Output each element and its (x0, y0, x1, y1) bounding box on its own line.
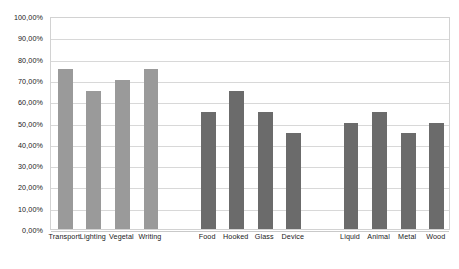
y-axis-tick-label: 70,00% (18, 76, 43, 85)
x-axis-tick-label: Metal (398, 232, 416, 241)
y-axis-tick-label: 100,00% (14, 13, 43, 22)
x-axis-tick-label: Glass (255, 232, 274, 241)
bar (58, 69, 73, 229)
bar (86, 91, 101, 229)
x-axis-tick-label: Lighting (80, 232, 106, 241)
y-axis: 100,00%90,00%80,00%70,00%60,00%50,00%40,… (0, 17, 47, 230)
x-axis-tick-label: Hooked (223, 232, 248, 241)
bar-chart: 100,00%90,00%80,00%70,00%60,00%50,00%40,… (0, 0, 459, 269)
bar (229, 91, 244, 229)
x-axis-tick-label: Device (282, 232, 305, 241)
bar (115, 80, 130, 229)
x-axis-tick-label: Animal (367, 232, 390, 241)
bar (344, 123, 359, 230)
y-axis-tick-label: 10,00% (18, 204, 43, 213)
x-axis-tick-label: Wood (426, 232, 445, 241)
y-axis-tick-label: 20,00% (18, 183, 43, 192)
x-axis: TransportLightingVegetalWritingFoodHooke… (50, 232, 450, 252)
bar (258, 112, 273, 229)
x-axis-tick-label: Food (199, 232, 216, 241)
y-axis-tick-label: 50,00% (18, 119, 43, 128)
plot-area (50, 17, 450, 230)
y-axis-tick-label: 0,00% (22, 226, 43, 235)
y-axis-tick-label: 30,00% (18, 162, 43, 171)
x-axis-tick-label: Liquid (340, 232, 360, 241)
y-axis-tick-label: 60,00% (18, 98, 43, 107)
x-axis-tick-label: Vegetal (109, 232, 134, 241)
bar (372, 112, 387, 229)
bar (401, 133, 416, 229)
y-axis-tick-label: 90,00% (18, 34, 43, 43)
bar (286, 133, 301, 229)
y-axis-tick-label: 80,00% (18, 55, 43, 64)
bar (429, 123, 444, 230)
bar (144, 69, 159, 229)
x-axis-tick-label: Writing (139, 232, 162, 241)
bar (201, 112, 216, 229)
bars-layer (51, 18, 449, 229)
x-axis-tick-label: Transport (49, 232, 80, 241)
y-axis-tick-label: 40,00% (18, 140, 43, 149)
